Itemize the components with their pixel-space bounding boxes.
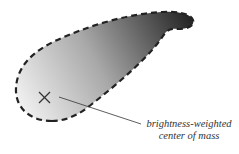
annotation-line-2: center of mass bbox=[143, 130, 235, 142]
galaxy-blob bbox=[16, 12, 193, 121]
annotation-line-1: brightness-weighted bbox=[143, 118, 235, 130]
annotation-label: brightness-weighted center of mass bbox=[143, 118, 235, 142]
